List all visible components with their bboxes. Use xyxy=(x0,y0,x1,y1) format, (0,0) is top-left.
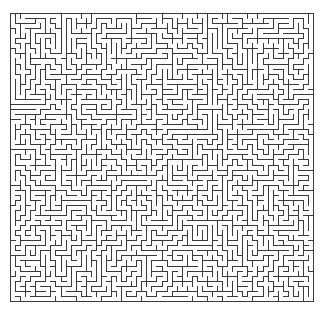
maze-canvas xyxy=(0,0,324,314)
maze-figure xyxy=(0,0,324,314)
